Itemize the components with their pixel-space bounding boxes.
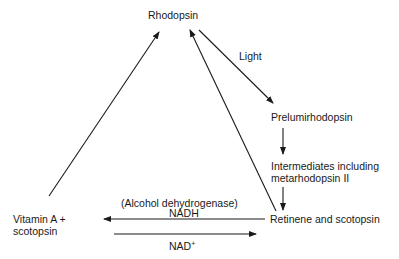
node-rhodopsin: Rhodopsin	[148, 9, 198, 21]
node-retinene-scotopsin: Retinene and scotopsin	[270, 213, 380, 225]
diagram-canvas: Rhodopsin Light Prelumirhodopsin Interme…	[0, 0, 399, 259]
node-intermediates-line1: Intermediates including	[271, 160, 379, 172]
nad-superscript: +	[191, 240, 195, 247]
edge-label-nadh: NADH	[169, 207, 199, 219]
node-intermediates-line2: metarhodopsin II	[271, 172, 349, 184]
nad-text: NAD	[169, 240, 191, 252]
node-vitamin-a-line2: scotopsin	[13, 225, 57, 237]
arrow-retinene-to-rhodopsin	[190, 30, 276, 211]
node-vitamin-a-line1: Vitamin A +	[13, 213, 66, 225]
edge-label-nad-plus: NAD+	[169, 240, 195, 252]
arrow-vitamin-to-rhodopsin	[49, 32, 159, 196]
node-prelumirhodopsin: Prelumirhodopsin	[271, 111, 353, 123]
edge-label-light: Light	[239, 50, 262, 62]
arrow-light-rhodopsin-to-prelumirhodopsin	[199, 30, 273, 103]
